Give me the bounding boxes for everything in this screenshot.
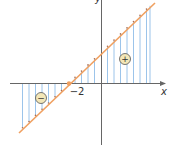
svg-text:−: −: [37, 93, 45, 103]
function-line: [19, 3, 155, 133]
negative-sign-badge: −: [36, 93, 47, 104]
positive-sign-badge: +: [120, 54, 131, 65]
line-dots: [22, 8, 148, 128]
root-label: −2: [70, 86, 85, 97]
y-axis-label: y: [94, 0, 102, 4]
negative-hatch: [23, 83, 62, 128]
svg-text:+: +: [121, 54, 129, 64]
sign-chart-diagram: − + −2 x y: [0, 0, 174, 153]
x-axis-label: x: [160, 86, 167, 97]
